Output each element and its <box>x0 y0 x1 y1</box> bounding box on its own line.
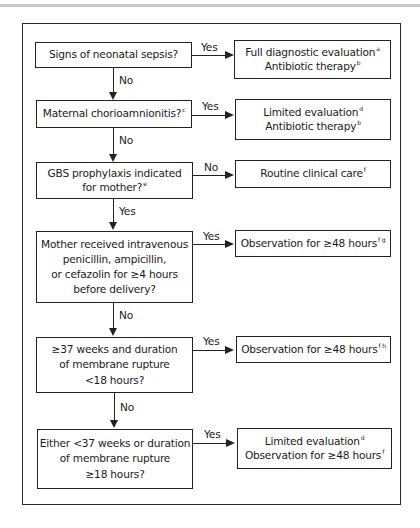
outcome-full-evaluation: Full diagnostic evaluationa Antibiotic t… <box>234 40 391 79</box>
outcome-line: Observation for ≥48 hours <box>245 449 381 461</box>
decision-iv-antibiotics: Mother received intravenous penicillin, … <box>36 231 193 303</box>
decision-text: for mother? <box>82 181 142 193</box>
arrow-down-icon <box>109 154 117 162</box>
outcome-line: Antibiotic therapy <box>265 120 356 132</box>
arrow-right-icon <box>225 171 234 179</box>
decision-text: of membrane rupture <box>60 452 170 464</box>
outcome-line: Observation for ≥48 hours <box>241 237 377 249</box>
footnote-marker: d <box>359 105 363 112</box>
outcome-line: Observation for ≥48 hours <box>241 343 377 355</box>
footnote-marker: a <box>376 45 379 52</box>
outcome-line: Full diagnostic evaluation <box>245 46 375 58</box>
decision-preterm-or-long-rupture: Either <37 weeks or duration of membrane… <box>37 429 193 489</box>
outcome-limited-evaluation-antibiotics: Limited evaluationd Antibiotic therapyb <box>235 99 391 140</box>
outcome-observation-fg: Observation for ≥48 hoursf g <box>235 230 391 257</box>
decision-text: penicillin, ampicillin, <box>63 253 167 265</box>
footnote-marker: b <box>357 119 361 126</box>
connector-no-1 <box>113 68 114 93</box>
decision-text: Maternal chorioamnionitis? <box>43 107 181 119</box>
decision-text: Mother received intravenous <box>41 238 188 250</box>
edge-label-yes: Yes <box>201 41 218 53</box>
decision-text: of membrane rupture <box>59 358 169 370</box>
outcome-line: Limited evaluation <box>265 435 360 447</box>
decision-text: before delivery? <box>73 283 155 295</box>
edge-label-no: No <box>119 309 133 321</box>
footnote-marker: f g <box>378 236 385 243</box>
arrow-right-icon <box>225 111 234 119</box>
arrow-right-icon <box>225 51 234 59</box>
decision-text: <18 hours? <box>85 374 144 386</box>
footnote-marker: e <box>143 180 147 187</box>
footnote-marker: b <box>357 59 361 66</box>
arrow-down-icon <box>109 328 117 336</box>
footnote-marker: f <box>382 448 384 455</box>
decision-text: or cefazolin for ≥4 hours <box>51 268 177 280</box>
decision-text: ≥18 hours? <box>85 468 144 480</box>
decision-chorioamnionitis: Maternal chorioamnionitis?c <box>36 100 192 128</box>
edge-label-yes: Yes <box>202 100 219 112</box>
outcome-line: Antibiotic therapy <box>265 60 356 72</box>
connector-yes-2 <box>192 115 226 116</box>
edge-label-no: No <box>120 401 134 413</box>
arrow-down-icon <box>109 222 117 230</box>
arrow-down-icon <box>109 92 117 100</box>
connector-yes-1 <box>192 55 226 56</box>
outcome-routine-care: Routine clinical caref <box>235 160 391 188</box>
decision-text: ≥37 weeks and duration <box>52 343 178 355</box>
outcome-line: Limited evaluation <box>263 106 358 118</box>
connector-yes-6 <box>193 443 227 444</box>
edge-label-yes: Yes <box>119 205 136 217</box>
arrow-right-icon <box>225 240 234 248</box>
edge-label-yes: Yes <box>203 335 220 347</box>
outcome-observation-fh: Observation for ≥48 hoursf h <box>236 336 391 363</box>
arrow-right-icon <box>226 439 235 447</box>
connector-no-5 <box>114 393 115 421</box>
edge-label-no: No <box>119 74 133 86</box>
outcome-limited-evaluation-observation: Limited evaluationd Observation for ≥48 … <box>237 428 392 469</box>
connector-no-4 <box>113 303 114 329</box>
edge-label-yes: Yes <box>204 428 221 440</box>
decision-neonatal-sepsis: Signs of neonatal sepsis? <box>35 42 192 68</box>
connector-yes-3 <box>113 199 114 223</box>
connector-no-3 <box>193 175 226 176</box>
edge-label-no: No <box>119 134 133 146</box>
connector-yes-4 <box>193 244 226 245</box>
connector-yes-5 <box>193 350 226 351</box>
decision-text: Either <37 weeks or duration <box>40 437 190 449</box>
decision-gbs-prophylaxis: GBS prophylaxis indicated for mother?e <box>36 162 193 199</box>
footnote-marker: f h <box>379 342 386 349</box>
top-divider <box>0 4 420 7</box>
footnote-marker: c <box>182 106 185 113</box>
edge-label-no: No <box>204 161 218 173</box>
edge-label-yes: Yes <box>203 230 220 242</box>
footnote-marker: d <box>361 434 365 441</box>
decision-term-short-rupture: ≥37 weeks and duration of membrane ruptu… <box>36 337 193 393</box>
decision-text: Signs of neonatal sepsis? <box>49 48 178 60</box>
decision-text: GBS prophylaxis indicated <box>48 167 182 179</box>
connector-no-2 <box>113 128 114 154</box>
arrow-right-icon <box>225 346 234 354</box>
arrow-down-icon <box>110 420 118 428</box>
outcome-line: Routine clinical care <box>260 167 363 179</box>
footnote-marker: f <box>364 166 366 173</box>
